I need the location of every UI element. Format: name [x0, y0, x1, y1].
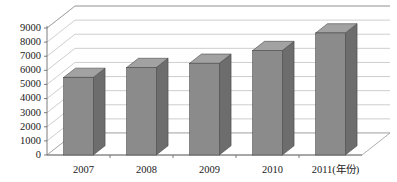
y-tick-label-2000: 2000 [20, 121, 41, 132]
y-tick-label-3000: 3000 [20, 107, 41, 118]
bar-side-face [93, 68, 105, 155]
y-tick-label-6000: 6000 [20, 64, 41, 75]
y-tick-label-1000: 1000 [20, 135, 41, 146]
chart-canvas: 0100020003000400050006000700080009000 20… [0, 0, 397, 182]
y-tick-label-4000: 4000 [20, 92, 41, 103]
y-tick-label-8000: 8000 [20, 36, 41, 47]
y-tick-label-0: 0 [36, 149, 41, 160]
bar-2009 [190, 54, 231, 155]
bar-side-face [219, 54, 231, 155]
bar-front-face [64, 77, 94, 155]
x-tick-label-2007: 2007 [73, 164, 94, 175]
bar-2007 [64, 68, 105, 155]
bar-front-face [316, 33, 346, 155]
x-tick-label-2011: 2011(年份) [312, 163, 360, 176]
y-tick-label-7000: 7000 [20, 50, 41, 61]
y-tick-label-5000: 5000 [20, 78, 41, 89]
y-axis-value-labels: 0100020003000400050006000700080009000 [20, 22, 41, 160]
x-tick-label-2010: 2010 [262, 164, 283, 175]
gridline-depth-8000 [47, 20, 75, 42]
bar-2010 [253, 41, 294, 155]
bar-2011 [316, 24, 357, 155]
bar-chart-figure: 0100020003000400050006000700080009000 20… [0, 0, 397, 182]
x-tick-label-2008: 2008 [136, 164, 157, 175]
bar-2008 [127, 58, 168, 155]
bar-front-face [127, 68, 157, 155]
bar-side-face [282, 41, 294, 155]
bar-front-face [253, 51, 283, 155]
gridline-depth-6000 [47, 48, 75, 70]
bar-side-face [156, 58, 168, 155]
bar-side-face [345, 24, 357, 155]
bar-front-face [190, 63, 220, 155]
x-tick-label-2009: 2009 [199, 164, 220, 175]
gridline-depth-7000 [47, 34, 75, 56]
y-tick-label-9000: 9000 [20, 22, 41, 33]
x-axis-category-labels: 20072008200920102011(年份) [73, 163, 360, 176]
